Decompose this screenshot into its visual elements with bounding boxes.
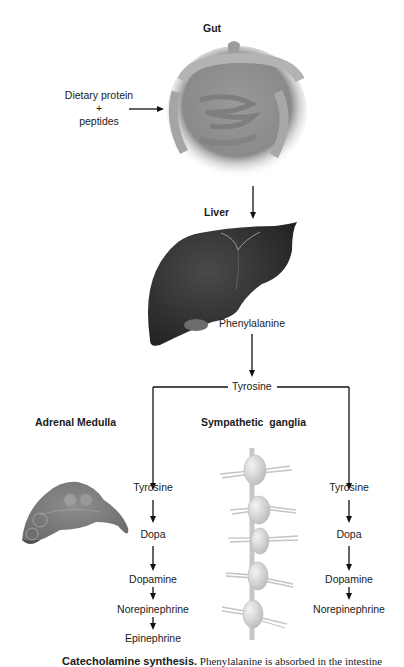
caption-title: Catecholamine synthesis.: [62, 655, 197, 667]
dietary-input-label: Dietary protein + peptides: [58, 89, 140, 128]
figure-caption: Catecholamine synthesis. Phenylalanine i…: [62, 655, 382, 667]
ganglia-step-dopamine: Dopamine: [299, 573, 399, 585]
caption-text: Phenylalanine is absorbed in the intesti…: [197, 655, 382, 667]
tyrosine-branch-label: Tyrosine: [232, 380, 272, 392]
plus-text: +: [58, 102, 140, 115]
adrenal-step-tyrosine: Tyrosine: [103, 481, 203, 493]
adrenal-step-epinephrine: Epinephrine: [103, 632, 203, 644]
adrenal-step-dopa: Dopa: [103, 528, 203, 540]
ganglia-step-norepinephrine: Norepinephrine: [299, 603, 399, 615]
ganglia-step-tyrosine: Tyrosine: [299, 481, 399, 493]
phenylalanine-label: Phenylalanine: [219, 317, 285, 329]
adrenal-medulla-title: Adrenal Medulla: [35, 416, 116, 428]
gut-title: Gut: [203, 22, 221, 34]
sympathetic-ganglia-illustration: [220, 448, 298, 640]
liver-title: Liver: [204, 206, 229, 218]
adrenal-step-dopamine: Dopamine: [103, 573, 203, 585]
sympathetic-ganglia-title: Sympathetic ganglia: [201, 416, 306, 428]
gut-illustration: [167, 41, 307, 178]
peptides-text: peptides: [58, 115, 140, 128]
ganglia-step-dopa: Dopa: [299, 528, 399, 540]
dietary-protein-text: Dietary protein: [58, 89, 140, 102]
adrenal-step-norepinephrine: Norepinephrine: [103, 603, 203, 615]
